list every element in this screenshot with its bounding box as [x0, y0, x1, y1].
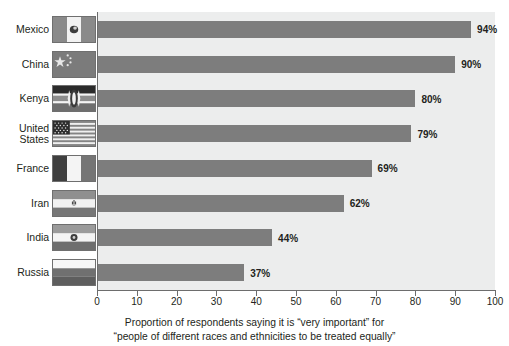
y-axis-line — [97, 12, 98, 291]
category-row: Iran — [0, 186, 96, 221]
x-axis-tick-label: 80 — [410, 296, 421, 307]
bar-value-label: 79% — [417, 128, 437, 139]
bar-value-label: 90% — [461, 59, 481, 70]
x-axis-tick-label: 20 — [171, 296, 182, 307]
bar-value-label: 62% — [350, 198, 370, 209]
x-axis-tick-label: 40 — [251, 296, 262, 307]
category-row: India — [0, 221, 96, 256]
bar-row — [97, 47, 495, 82]
flag-iran-icon — [52, 190, 96, 217]
x-axis-tick-label: 60 — [330, 296, 341, 307]
bar-row — [97, 186, 495, 221]
bar — [97, 264, 244, 281]
category-label: China — [22, 59, 52, 70]
bar — [97, 195, 344, 212]
category-label: Mexico — [16, 24, 52, 35]
plot-area — [97, 12, 495, 290]
category-label: Iran — [31, 198, 52, 209]
category-row: France — [0, 151, 96, 186]
x-axis-tick-label: 90 — [450, 296, 461, 307]
bar-value-label: 80% — [421, 93, 441, 104]
bar — [97, 229, 272, 246]
category-row: China — [0, 47, 96, 82]
bar-value-label: 44% — [278, 232, 298, 243]
bar-chart: MexicoChinaKenyaUnited StatesFranceIranI… — [0, 0, 509, 346]
bar — [97, 56, 455, 73]
flag-kenya-icon — [52, 85, 96, 112]
flag-russia-icon — [52, 259, 96, 286]
category-row: Russia — [0, 255, 96, 290]
caption-line-1: Proportion of respondents saying it is “… — [0, 316, 509, 330]
caption-line-2: “people of different races and ethniciti… — [0, 330, 509, 344]
bar-row — [97, 12, 495, 47]
flag-china-icon — [52, 51, 96, 78]
bar-value-label: 94% — [477, 24, 497, 35]
x-axis-tick-label: 30 — [211, 296, 222, 307]
category-label: India — [26, 232, 52, 243]
flag-mexico-icon — [52, 16, 96, 43]
bar — [97, 90, 415, 107]
category-row: United States — [0, 116, 96, 151]
bar — [97, 125, 411, 142]
x-axis-tick-label: 100 — [487, 296, 504, 307]
chart-caption: Proportion of respondents saying it is “… — [0, 316, 509, 343]
x-axis-tick-label: 50 — [290, 296, 301, 307]
category-label: France — [17, 163, 52, 174]
x-axis-tick-label: 10 — [131, 296, 142, 307]
category-label: Russia — [17, 267, 52, 278]
x-axis-tick-label: 0 — [94, 296, 100, 307]
bar-value-label: 37% — [250, 267, 270, 278]
bar — [97, 160, 372, 177]
bar-row — [97, 151, 495, 186]
x-axis-tick-label: 70 — [370, 296, 381, 307]
bar-value-label: 69% — [378, 163, 398, 174]
flag-france-icon — [52, 155, 96, 182]
category-row: Mexico — [0, 12, 96, 47]
category-axis: MexicoChinaKenyaUnited StatesFranceIranI… — [0, 12, 96, 290]
bar-row — [97, 255, 495, 290]
flag-india-icon — [52, 224, 96, 251]
category-row: Kenya — [0, 82, 96, 117]
bar — [97, 21, 471, 38]
flag-united-states-icon — [52, 120, 96, 147]
category-label: United States — [19, 123, 52, 145]
category-label: Kenya — [19, 93, 52, 104]
